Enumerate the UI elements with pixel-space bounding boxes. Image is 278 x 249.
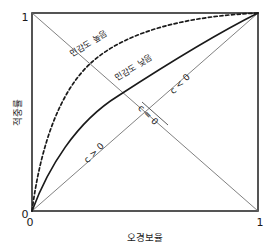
y-axis-title: 적중률	[12, 99, 23, 126]
x-axis-title: 오경보율	[127, 232, 163, 243]
x-axis-min-tick-label: 0	[27, 216, 34, 229]
roc-curve-chart: 1 0 0 1 오경보율 적중률 민감도 높음 민감도 낮음 c > 0 c =…	[0, 0, 278, 249]
y-axis-max-tick-label: 1	[22, 11, 29, 24]
x-axis-max-tick-label: 1	[257, 216, 264, 229]
